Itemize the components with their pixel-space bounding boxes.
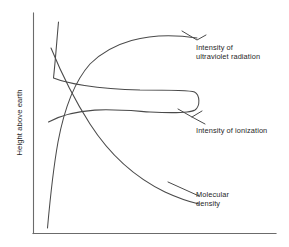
curve-molecular-density — [51, 48, 199, 204]
leader-line-molecular-density — [168, 182, 199, 196]
annotation-ultraviolet-radiation: Intensity of ultraviolet radiation — [196, 43, 260, 62]
curve-ionization — [49, 22, 199, 122]
chart-plot-area — [0, 0, 289, 247]
y-axis-label: Height above earth — [15, 63, 24, 183]
annotation-ionization: Intensity of ionization — [196, 126, 267, 135]
leader-line-ultraviolet — [182, 31, 206, 40]
annotation-molecular-density: Molecular density — [196, 190, 229, 209]
curve-ultraviolet-radiation — [48, 36, 198, 228]
chart-figure: Intensity of ultraviolet radiation Inten… — [0, 0, 289, 247]
